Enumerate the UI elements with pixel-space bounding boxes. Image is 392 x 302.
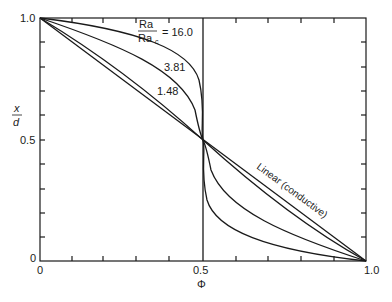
ratio-value: = 16.0: [162, 26, 193, 38]
y-axis-num: x: [13, 102, 20, 114]
ratio-sub: c: [155, 38, 159, 45]
curves: [40, 18, 366, 261]
x-tick-1: 1.0: [364, 264, 379, 276]
y-tick-1: 1.0: [20, 12, 35, 24]
label-1-48: 1.48: [157, 85, 178, 97]
x-tick-0: 0: [37, 264, 43, 276]
y-tick-0: 0: [30, 252, 36, 264]
ratio-den: Ra: [138, 32, 153, 44]
label-linear: Linear (conductive): [255, 161, 330, 220]
x-tick-05: 0.5: [193, 264, 208, 276]
label-3-81: 3.81: [164, 61, 185, 73]
x-axis-label: Φ: [197, 278, 206, 290]
chart: 1.0 0.5 0 0 0.5 1.0 x d Φ Ra Ra c = 16.0…: [0, 0, 392, 302]
y-tick-05: 0.5: [20, 134, 35, 146]
ratio-num: Ra: [139, 18, 154, 30]
y-axis-den: d: [13, 116, 20, 128]
